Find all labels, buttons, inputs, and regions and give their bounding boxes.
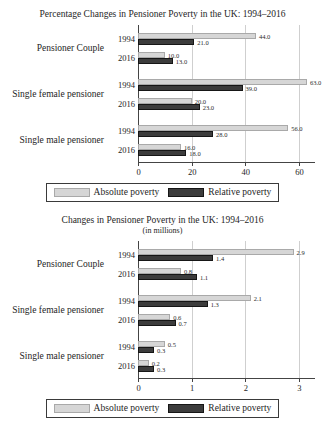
bar-row: 18.0: [138, 150, 315, 156]
page: Percentage Changes in Pensioner Poverty …: [0, 0, 325, 418]
chart-body: Pensioner Couple199444.021.0201610.013.0…: [0, 25, 325, 178]
x-axis: 0204060: [138, 162, 315, 178]
bar-row: 28.0: [138, 131, 315, 137]
category-group: Single female pensioner19942.11.320160.6…: [0, 295, 315, 326]
chart-title: Percentage Changes in Pensioner Poverty …: [0, 8, 325, 20]
year-label: 1994: [108, 33, 138, 45]
year-row: 201610.013.0: [108, 52, 315, 64]
year-label: 1994: [108, 295, 138, 307]
year-row: 199456.028.0: [108, 125, 315, 137]
bar-pair: 63.039.0: [138, 79, 315, 91]
tick-mark: [192, 379, 193, 382]
bar-row: 39.0: [138, 85, 315, 91]
plot-area: Pensioner Couple199444.021.0201610.013.0…: [0, 25, 325, 162]
category-group: Pensioner Couple199444.021.0201610.013.0: [0, 33, 315, 64]
bar-relative: [138, 255, 213, 261]
bar-relative: [138, 274, 197, 280]
bar-pair: 44.021.0: [138, 33, 315, 45]
year-rows: 199456.028.0201616.018.0: [108, 125, 315, 156]
year-rows: 199463.039.0201620.023.0: [108, 79, 315, 110]
relative-poverty-swatch-icon: [168, 188, 204, 197]
bar-relative: [138, 39, 194, 45]
bar-relative: [138, 85, 243, 91]
year-label: 2016: [108, 144, 138, 156]
year-label: 2016: [108, 98, 138, 110]
tick-label: 40: [242, 167, 251, 177]
bar-pair: 10.013.0: [138, 52, 315, 64]
bar-value-label: 1.3: [211, 301, 219, 308]
percentage-poverty-chart: Percentage Changes in Pensioner Poverty …: [0, 8, 325, 202]
tick-label: 20: [188, 167, 197, 177]
bar-row: 1.1: [138, 274, 315, 280]
tick-label: 0: [136, 383, 140, 393]
bar-value-label: 0.3: [157, 347, 165, 354]
year-row: 20160.60.7: [108, 314, 315, 326]
bar-pair: 2.91.4: [138, 249, 315, 261]
year-rows: 199444.021.0201610.013.0: [108, 33, 315, 64]
plot-area: Pensioner Couple19942.91.420160.81.1Sing…: [0, 241, 325, 378]
category-group: Single female pensioner199463.039.020162…: [0, 79, 315, 110]
year-label: 1994: [108, 341, 138, 353]
year-label: 1994: [108, 125, 138, 137]
legend-item-relative: Relative poverty: [168, 187, 271, 198]
bar-relative: [138, 347, 154, 353]
bar-row: 13.0: [138, 58, 315, 64]
absolute-poverty-swatch-icon: [54, 188, 90, 197]
legend-label: Absolute poverty: [94, 403, 160, 414]
category-label: Single male pensioner: [0, 135, 108, 146]
year-rows: 19942.11.320160.60.7: [108, 295, 315, 326]
bar-value-label: 0.7: [179, 320, 187, 327]
year-row: 201616.018.0: [108, 144, 315, 156]
bar-relative: [138, 301, 208, 307]
legend-label: Relative poverty: [208, 187, 271, 198]
bar-row: 1.4: [138, 255, 315, 261]
tick-label: 60: [295, 167, 304, 177]
year-row: 19940.50.3: [108, 341, 315, 353]
bar-value-label: 39.0: [246, 85, 257, 92]
category-label: Pensioner Couple: [0, 259, 108, 270]
year-label: 2016: [108, 268, 138, 280]
tick-mark: [245, 163, 246, 166]
bar-pair: 0.81.1: [138, 268, 315, 280]
tick-label: 3: [297, 383, 301, 393]
bar-pair: 0.20.3: [138, 360, 315, 372]
bar-row: 1.3: [138, 301, 315, 307]
category-label: Single male pensioner: [0, 351, 108, 362]
tick-mark: [245, 379, 246, 382]
category-group: Single male pensioner199456.028.0201616.…: [0, 125, 315, 156]
bar-value-label: 0.3: [157, 366, 165, 373]
legend-item-relative: Relative poverty: [168, 403, 271, 414]
bar-pair: 0.60.7: [138, 314, 315, 326]
bar-value-label: 28.0: [216, 131, 227, 138]
bar-value-label: 23.0: [203, 104, 214, 111]
bar-relative: [138, 104, 200, 110]
tick-mark: [138, 379, 139, 382]
category-label: Single female pensioner: [0, 89, 108, 100]
bar-row: 21.0: [138, 39, 315, 45]
year-row: 20160.20.3: [108, 360, 315, 372]
year-row: 199444.021.0: [108, 33, 315, 45]
chart-subtitle: (in millions): [0, 226, 325, 236]
tick-mark: [299, 163, 300, 166]
legend: Absolute poverty Relative poverty: [46, 399, 280, 418]
absolute-poverty-swatch-icon: [54, 404, 90, 413]
year-row: 201620.023.0: [108, 98, 315, 110]
year-label: 1994: [108, 79, 138, 91]
tick-label: 1: [190, 383, 194, 393]
tick-label: 2: [244, 383, 248, 393]
category-group: Pensioner Couple19942.91.420160.81.1: [0, 249, 315, 280]
tick-mark: [299, 379, 300, 382]
bar-value-label: 13.0: [176, 58, 187, 65]
bar-pair: 0.50.3: [138, 341, 315, 353]
legend-label: Relative poverty: [208, 403, 271, 414]
bar-pair: 56.028.0: [138, 125, 315, 137]
relative-poverty-swatch-icon: [168, 404, 204, 413]
year-row: 20160.81.1: [108, 268, 315, 280]
bar-row: 0.3: [138, 347, 315, 353]
bar-relative: [138, 58, 173, 64]
tick-mark: [138, 163, 139, 166]
bar-relative: [138, 131, 213, 137]
bar-pair: 20.023.0: [138, 98, 315, 110]
legend: Absolute poverty Relative poverty: [46, 183, 280, 202]
bar-row: 0.3: [138, 366, 315, 372]
